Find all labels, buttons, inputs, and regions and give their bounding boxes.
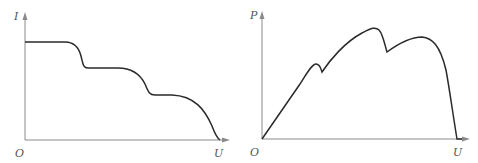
x-axis-arrow-icon bbox=[462, 137, 470, 142]
x-axis-label: U bbox=[214, 147, 224, 160]
pu-curve bbox=[262, 28, 462, 139]
y-axis-arrow-icon bbox=[23, 12, 28, 20]
y-axis-arrow-icon bbox=[260, 11, 265, 19]
y-axis-label: P bbox=[249, 9, 258, 22]
x-axis-label: U bbox=[453, 146, 463, 159]
iu-chart: I O U bbox=[13, 10, 230, 160]
pu-chart: P O U bbox=[249, 9, 470, 159]
origin-label: O bbox=[15, 147, 24, 160]
y-axis-label: I bbox=[13, 10, 19, 23]
figure: I O U P O U bbox=[0, 0, 478, 163]
x-axis-arrow-icon bbox=[222, 138, 230, 143]
origin-label: O bbox=[250, 146, 259, 159]
iu-curve bbox=[25, 42, 220, 140]
